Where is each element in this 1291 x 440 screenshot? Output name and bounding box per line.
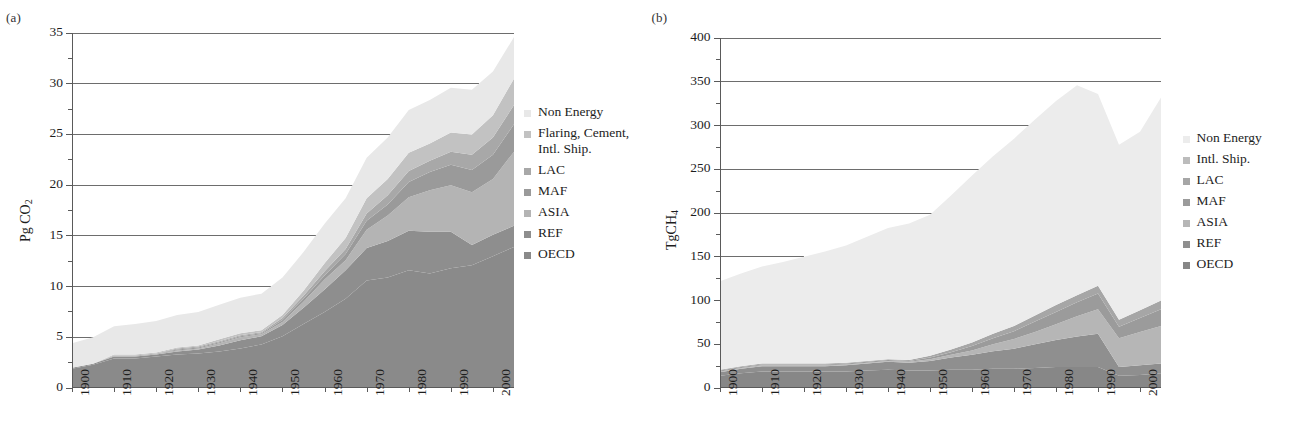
y-tick-mark — [714, 81, 720, 82]
legend-item-lac[interactable]: LAC — [1183, 172, 1262, 188]
x-tick-label-1940: 1940 — [245, 369, 261, 396]
y-tick-mark — [66, 286, 72, 287]
legend-item-non-energy[interactable]: Non Energy — [524, 104, 629, 120]
legend-swatch-icon — [524, 210, 531, 217]
legend-item-lac[interactable]: LAC — [524, 162, 629, 178]
legend-label: OECD — [538, 246, 575, 262]
legend-item-ref[interactable]: REF — [524, 225, 629, 241]
y-tick-mark — [714, 300, 720, 301]
y-tick-label: 20 — [50, 176, 64, 192]
x-tick-mark-1980 — [409, 388, 410, 392]
x-tick-label-1900: 1900 — [725, 369, 741, 396]
panel-a: (a) Pg CO2 05101520253035190019101920193… — [0, 0, 646, 440]
x-tick-mark-1920 — [804, 388, 805, 392]
legend-item-non-energy[interactable]: Non Energy — [1183, 130, 1262, 146]
legend-label: Non Energy — [538, 104, 603, 120]
y-tick-mark — [68, 362, 72, 363]
y-tick-label: 15 — [50, 227, 64, 243]
x-tick-mark-1940 — [240, 388, 241, 392]
legend-swatch-icon — [524, 252, 531, 259]
y-tick-label: 30 — [50, 75, 64, 91]
x-tick-mark-1940 — [888, 388, 889, 392]
y-tick-mark — [716, 366, 720, 367]
legend-swatch-icon — [1183, 178, 1190, 185]
legend-label: MAF — [538, 183, 567, 199]
panel-a-y-axis-line — [72, 33, 73, 388]
legend-label: Flaring, Cement, Intl. Ship. — [538, 125, 629, 157]
x-tick-label-1950: 1950 — [935, 369, 951, 396]
legend-item-oecd[interactable]: OECD — [524, 246, 629, 262]
x-tick-mark-2000 — [1140, 388, 1141, 392]
x-tick-mark-1930 — [198, 388, 199, 392]
y-tick-mark — [716, 191, 720, 192]
x-tick-label-2000: 2000 — [1145, 369, 1161, 396]
x-tick-label-1990: 1990 — [1103, 369, 1119, 396]
legend-label: ASIA — [1197, 214, 1229, 230]
x-tick-label-1910: 1910 — [119, 369, 135, 396]
legend-swatch-icon — [1183, 157, 1190, 164]
x-tick-label-1960: 1960 — [977, 369, 993, 396]
legend-item-oecd[interactable]: OECD — [1183, 256, 1262, 272]
x-tick-label-1960: 1960 — [330, 369, 346, 396]
x-tick-mark-1990 — [1098, 388, 1099, 392]
legend-item-asia[interactable]: ASIA — [1183, 214, 1262, 230]
y-tick-mark — [68, 311, 72, 312]
y-tick-label: 350 — [690, 73, 710, 89]
legend-item-flaring-cement-intl-ship[interactable]: Flaring, Cement, Intl. Ship. — [524, 125, 629, 157]
panel-b-legend: Non EnergyIntl. Ship.LACMAFASIAREFOECD — [1183, 130, 1262, 277]
stacked-areas — [72, 33, 514, 388]
legend-item-intl-ship[interactable]: Intl. Ship. — [1183, 151, 1262, 167]
x-tick-mark-1980 — [1056, 388, 1057, 392]
y-tick-label: 25 — [50, 125, 64, 141]
x-tick-label-1930: 1930 — [203, 369, 219, 396]
legend-label: Non Energy — [1197, 130, 1262, 146]
x-tick-mark-1910 — [114, 388, 115, 392]
panel-b: (b) TgCH4 050100150200250300350400190019… — [646, 0, 1291, 440]
y-tick-mark — [66, 83, 72, 84]
x-tick-label-1920: 1920 — [161, 369, 177, 396]
x-tick-mark-1920 — [156, 388, 157, 392]
y-tick-mark — [66, 185, 72, 186]
legend-item-asia[interactable]: ASIA — [524, 204, 629, 220]
x-tick-label-1980: 1980 — [414, 369, 430, 396]
x-tick-label-1970: 1970 — [372, 369, 388, 396]
y-tick-mark — [714, 125, 720, 126]
y-tick-mark — [66, 235, 72, 236]
legend-item-maf[interactable]: MAF — [524, 183, 629, 199]
legend-label: REF — [1197, 235, 1222, 251]
x-tick-label-1930: 1930 — [851, 369, 867, 396]
panel-a-y-axis-label-main: Pg CO — [18, 204, 33, 242]
y-tick-mark — [716, 322, 720, 323]
legend-item-maf[interactable]: MAF — [1183, 193, 1262, 209]
x-tick-mark-1990 — [451, 388, 452, 392]
panel-a-y-axis-label: Pg CO2 — [18, 199, 34, 242]
stacked-areas — [720, 38, 1161, 388]
x-tick-label-1970: 1970 — [1019, 369, 1035, 396]
figure-stacked-area-emissions: (a) Pg CO2 05101520253035190019101920193… — [0, 0, 1291, 440]
y-tick-mark — [714, 344, 720, 345]
x-tick-label-1950: 1950 — [287, 369, 303, 396]
legend-label: Intl. Ship. — [1197, 151, 1251, 167]
x-tick-mark-1960 — [325, 388, 326, 392]
legend-swatch-icon — [1183, 199, 1190, 206]
x-tick-mark-1900 — [720, 388, 721, 392]
x-tick-mark-1970 — [1014, 388, 1015, 392]
panel-b-plot-area: 0501001502002503003504001900191019201930… — [720, 38, 1161, 388]
y-tick-mark — [714, 38, 720, 39]
x-tick-mark-1960 — [972, 388, 973, 392]
x-tick-mark-1900 — [72, 388, 73, 392]
legend-item-ref[interactable]: REF — [1183, 235, 1262, 251]
panel-b-y-axis-line — [720, 38, 721, 388]
x-tick-label-1920: 1920 — [809, 369, 825, 396]
y-tick-mark — [714, 256, 720, 257]
panel-b-y-axis-label-sub: 4 — [669, 210, 680, 215]
y-tick-mark — [716, 103, 720, 104]
x-tick-label-1900: 1900 — [77, 369, 93, 396]
y-tick-label: 250 — [690, 160, 710, 176]
y-tick-mark — [716, 147, 720, 148]
panel-b-y-axis-label: TgCH4 — [664, 210, 680, 250]
y-tick-mark — [66, 33, 72, 34]
y-tick-label: 50 — [697, 335, 711, 351]
y-tick-label: 400 — [690, 29, 710, 45]
panel-a-tag: (a) — [6, 10, 21, 26]
